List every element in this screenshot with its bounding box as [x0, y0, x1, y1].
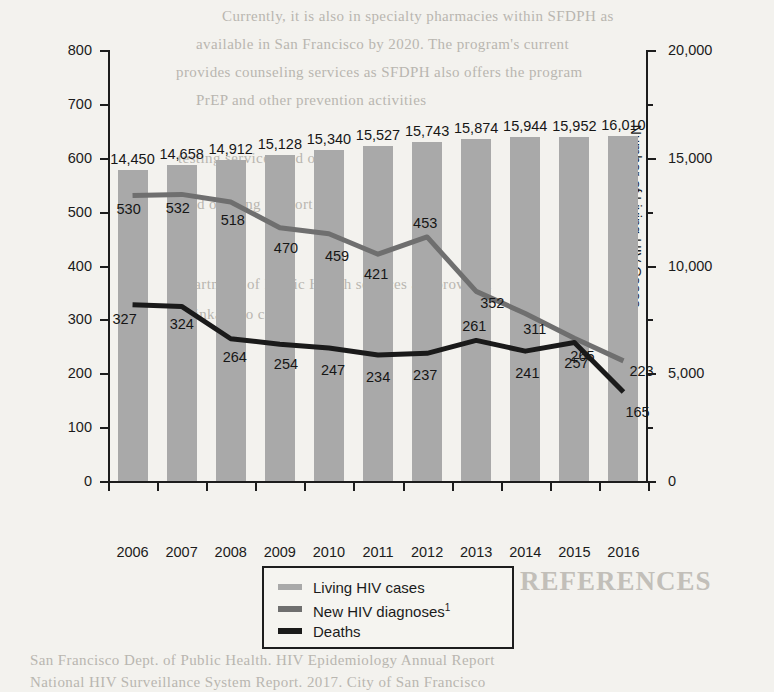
x-axis-tick [206, 483, 208, 491]
bar-value-label: 15,340 [301, 131, 357, 147]
x-axis-tick-label: 2006 [105, 544, 161, 560]
y-axis-left-tick [100, 212, 108, 214]
y-axis-right-minor-tick [648, 212, 653, 214]
x-axis-tick-label: 2011 [350, 544, 406, 560]
x-axis-tick [353, 483, 355, 491]
y-axis-left-tick [100, 50, 108, 52]
diagnoses-value-label: 311 [523, 321, 546, 337]
legend-swatch-icon [278, 584, 302, 590]
x-axis-tick-label: 2016 [595, 544, 651, 560]
y-axis-left-tick [100, 266, 108, 268]
bar-value-label: 14,658 [154, 146, 210, 162]
y-axis-right-tick [648, 266, 656, 268]
x-axis-tick [304, 483, 306, 491]
x-axis-tick-label: 2015 [546, 544, 602, 560]
y-axis-left-tick-label: 300 [32, 312, 92, 327]
bar-value-label: 15,944 [497, 118, 553, 134]
diagnoses-value-label: 352 [480, 295, 504, 311]
y-axis-right-minor-tick [648, 104, 653, 106]
y-axis-right-tick [648, 373, 656, 375]
y-axis-left-tick-label: 100 [32, 420, 92, 435]
legend-item-living-hiv-cases: Living HIV cases [278, 576, 425, 598]
chart-legend: Living HIV cases New HIV diagnoses1 Deat… [262, 566, 514, 649]
x-axis-tick [550, 483, 552, 491]
deaths-value-label: 254 [274, 356, 298, 372]
diagnoses-value-label: 459 [325, 248, 349, 264]
y-axis-right-tick-label: 20,000 [668, 43, 712, 58]
bar-value-label: 15,128 [252, 136, 308, 152]
deaths-value-label: 247 [321, 362, 345, 378]
x-axis-tick [255, 483, 257, 491]
legend-label: Deaths [313, 624, 361, 639]
x-axis-tick [108, 483, 110, 491]
legend-swatch-icon [278, 628, 302, 634]
hiv-trends-chart: Number of New HIV Diagnoses/Deaths Numbe… [0, 0, 774, 692]
legend-footnote-marker: 1 [445, 602, 451, 613]
diagnoses-value-label: 532 [166, 200, 190, 216]
plot-area: 14,45014,65814,91215,12815,34015,52715,7… [108, 50, 648, 483]
legend-swatch-icon [278, 606, 302, 612]
x-axis-tick-label: 2014 [497, 544, 553, 560]
legend-label: Living HIV cases [313, 580, 425, 595]
y-axis-right-tick-label: 5,000 [668, 366, 704, 381]
deaths-value-label: 257 [564, 355, 588, 371]
y-axis-left-tick-label: 500 [32, 205, 92, 220]
y-axis-right-tick [648, 158, 656, 160]
legend-item-deaths: Deaths [278, 620, 361, 642]
deaths-value-label: 165 [625, 404, 649, 420]
y-axis-right-minor-tick [648, 319, 653, 321]
diagnoses-value-label: 223 [629, 363, 653, 379]
x-axis-tick [452, 483, 454, 491]
y-axis-left-tick-label: 800 [32, 43, 92, 58]
x-axis-tick [648, 483, 650, 491]
x-axis-tick [157, 483, 159, 491]
bar-value-label: 16,010 [595, 117, 651, 133]
y-axis-right-tick-label: 0 [668, 474, 676, 489]
bar-value-label: 14,912 [203, 141, 259, 157]
bar-value-label: 15,527 [350, 127, 406, 143]
deaths-value-label: 234 [366, 369, 390, 385]
y-axis-right-tick-label: 10,000 [668, 259, 712, 274]
diagnoses-value-label: 530 [117, 201, 141, 217]
y-axis-left-tick-label: 400 [32, 259, 92, 274]
y-axis-left-tick [100, 481, 108, 483]
x-axis-tick [599, 483, 601, 491]
bar-value-label: 15,874 [448, 120, 504, 136]
x-axis-tick [501, 483, 503, 491]
deaths-value-label: 237 [413, 367, 437, 383]
diagnoses-value-label: 421 [364, 266, 388, 282]
bar-value-label: 14,450 [105, 151, 161, 167]
diagnoses-value-label: 518 [221, 212, 245, 228]
x-axis-tick-label: 2010 [301, 544, 357, 560]
y-axis-left-tick [100, 373, 108, 375]
x-axis-tick-label: 2009 [252, 544, 308, 560]
deaths-value-label: 261 [462, 318, 486, 334]
x-axis-tick-label: 2013 [448, 544, 504, 560]
y-axis-right-tick [648, 50, 656, 52]
diagnoses-value-label: 453 [413, 215, 437, 231]
y-axis-right-tick-label: 15,000 [668, 151, 712, 166]
y-axis-right-minor-tick [648, 427, 653, 429]
y-axis-left-tick-label: 600 [32, 151, 92, 166]
bar-value-label: 15,743 [399, 123, 455, 139]
deaths-value-label: 241 [515, 365, 539, 381]
x-axis-tick-label: 2012 [399, 544, 455, 560]
y-axis-left-tick [100, 104, 108, 106]
y-axis-left-tick-label: 0 [32, 474, 92, 489]
legend-item-new-hiv-diagnoses: New HIV diagnoses1 [278, 598, 450, 620]
x-axis-tick-label: 2007 [154, 544, 210, 560]
deaths-value-label: 324 [170, 316, 194, 332]
legend-label: New HIV diagnoses1 [313, 600, 450, 619]
y-axis-left-tick-label: 700 [32, 97, 92, 112]
y-axis-left-tick [100, 319, 108, 321]
bar-value-label: 15,952 [546, 118, 602, 134]
diagnoses-value-label: 470 [274, 240, 298, 256]
x-axis-tick [403, 483, 405, 491]
deaths-value-label: 327 [113, 311, 137, 327]
deaths-value-label: 264 [223, 349, 247, 365]
y-axis-left-tick [100, 427, 108, 429]
y-axis-left-tick [100, 158, 108, 160]
x-axis-tick-label: 2008 [203, 544, 259, 560]
y-axis-left-tick-label: 200 [32, 366, 92, 381]
